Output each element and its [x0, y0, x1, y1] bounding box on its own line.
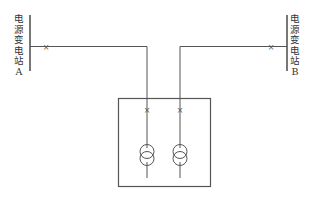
source-b-char: 站: [289, 56, 301, 67]
breaker-b-incoming-icon: ×: [177, 106, 184, 115]
feeder-b-line: [180, 47, 287, 99]
source-b-label: 电 源 变 电 站 B: [289, 14, 301, 77]
breaker-b-source-icon: ×: [268, 43, 275, 52]
source-a-char: 站: [13, 56, 25, 67]
substation-box: [119, 99, 211, 187]
source-b-char: 电: [289, 14, 301, 25]
diagram-canvas: × × × ×: [0, 0, 316, 198]
source-a-label: 电 源 变 电 站 A: [13, 14, 25, 77]
source-b-char: B: [289, 67, 301, 78]
source-b-char: 变: [289, 35, 301, 46]
source-a-char: 电: [13, 14, 25, 25]
breaker-a-incoming-icon: ×: [144, 106, 151, 115]
source-a-char: A: [13, 67, 25, 78]
source-a-char: 变: [13, 35, 25, 46]
breaker-a-source-icon: ×: [43, 43, 50, 52]
feeder-a-line: [30, 47, 147, 99]
